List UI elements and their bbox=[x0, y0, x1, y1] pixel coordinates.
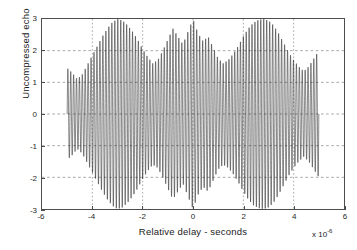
x-tick-mark bbox=[92, 206, 93, 210]
x-tick-label: 4 bbox=[292, 212, 296, 221]
signal-waveform bbox=[42, 19, 344, 209]
x-tick-mark bbox=[294, 206, 295, 210]
x-axis-label: Relative delay - seconds bbox=[41, 226, 345, 237]
x-axis-exponent-label: x 10-6 bbox=[312, 228, 332, 239]
y-tick-mark bbox=[41, 18, 45, 19]
y-tick-mark bbox=[41, 210, 45, 211]
x-tick-mark bbox=[345, 206, 346, 210]
x-tick-label: -2 bbox=[139, 212, 146, 221]
exponent-prefix: x 10 bbox=[312, 230, 327, 239]
y-tick-label: 3 bbox=[33, 14, 37, 23]
y-tick-mark bbox=[41, 114, 45, 115]
y-tick-mark bbox=[41, 178, 45, 179]
y-tick-label: -1 bbox=[30, 142, 37, 151]
x-tick-mark bbox=[193, 206, 194, 210]
x-tick-mark bbox=[244, 206, 245, 210]
y-tick-label: 2 bbox=[33, 46, 37, 55]
x-tick-label: 6 bbox=[343, 212, 347, 221]
waveform-trace bbox=[67, 19, 319, 209]
plot-area bbox=[41, 18, 345, 210]
y-tick-label: -3 bbox=[30, 206, 37, 215]
x-tick-label: -6 bbox=[37, 212, 44, 221]
y-tick-label: 1 bbox=[33, 78, 37, 87]
y-tick-mark bbox=[41, 50, 45, 51]
x-tick-mark bbox=[142, 206, 143, 210]
y-tick-mark bbox=[41, 146, 45, 147]
y-axis-label: Uncompressed echo bbox=[20, 0, 31, 134]
x-tick-label: 0 bbox=[191, 212, 195, 221]
x-tick-label: -4 bbox=[88, 212, 95, 221]
y-tick-label: -2 bbox=[30, 174, 37, 183]
y-tick-label: 0 bbox=[33, 110, 37, 119]
y-tick-mark bbox=[41, 82, 45, 83]
x-tick-label: 2 bbox=[241, 212, 245, 221]
figure-canvas: -6-4-202463210-1-2-3 Relative delay - se… bbox=[0, 0, 357, 250]
exponent-power: -6 bbox=[327, 228, 332, 234]
